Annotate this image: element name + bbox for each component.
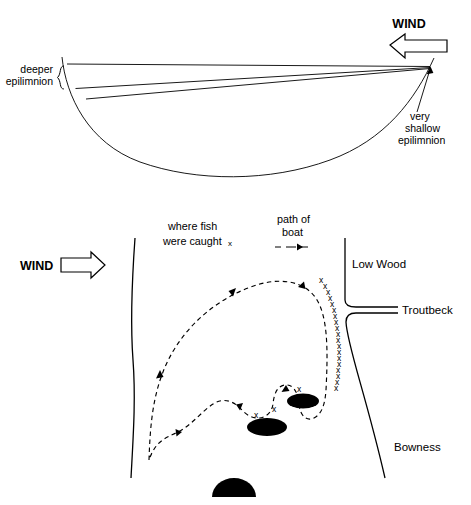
fish-legend-symbol: x bbox=[228, 239, 232, 248]
wind-arrow-left-icon bbox=[390, 34, 447, 58]
shoreline-troutbeck-bowness bbox=[346, 313, 398, 478]
very-shallow-epilimnion-leader bbox=[417, 67, 433, 113]
deeper-epilimnion-brace bbox=[58, 66, 64, 89]
island-right bbox=[287, 394, 319, 409]
fish-mark: x bbox=[297, 384, 302, 394]
wind-label-top: WIND bbox=[392, 17, 425, 31]
boat-path bbox=[149, 281, 327, 460]
very-shallow-line2: shallow bbox=[405, 122, 440, 134]
place-label-bowness: Bowness bbox=[394, 441, 441, 453]
fish-legend-line2: were caught bbox=[162, 235, 222, 247]
water-surface-line bbox=[67, 64, 430, 67]
boat-legend-symbol-icon bbox=[275, 244, 308, 251]
boat-path-arrowhead-icon bbox=[229, 288, 237, 297]
wind-arrow-top: WIND bbox=[390, 17, 447, 58]
boat-path-arrowhead-icon bbox=[156, 370, 164, 379]
boat-legend-line2: boat bbox=[282, 226, 303, 238]
wind-label-bottom: WIND bbox=[20, 259, 53, 273]
boat-legend-line1: path of bbox=[277, 213, 311, 225]
very-shallow-line3: epilimnion bbox=[398, 134, 445, 146]
wind-arrow-right-icon bbox=[61, 252, 105, 278]
fish-mark: x bbox=[254, 410, 259, 420]
wind-arrow-bottom: WIND bbox=[20, 252, 105, 278]
lake-map-panel: WIND where fish were caught x path of bo… bbox=[20, 213, 453, 497]
fish-legend: where fish were caught x bbox=[162, 220, 232, 248]
lower-thermocline-line bbox=[86, 69, 430, 100]
place-label-low-wood: Low Wood bbox=[352, 258, 406, 270]
island-bottom bbox=[212, 478, 256, 497]
shoreline-low-wood bbox=[345, 238, 398, 307]
deeper-epilimnion-line2: epilimnion bbox=[6, 75, 53, 87]
deeper-epilimnion-line1: deeper bbox=[20, 63, 53, 75]
very-shallow-epilimnion-label: very shallow epilimnion bbox=[398, 110, 445, 146]
cross-section-panel: WIND deeper epilimnion very shallow epil… bbox=[6, 17, 447, 177]
very-shallow-line1: very bbox=[410, 110, 431, 122]
lake-basin-curve bbox=[62, 57, 434, 177]
leader-line bbox=[417, 71, 430, 112]
fish-legend-line1: where fish bbox=[167, 220, 217, 232]
boat-path-line bbox=[149, 281, 327, 460]
place-label-troutbeck: Troutbeck bbox=[402, 304, 453, 316]
lake-stratification-figure: WIND deeper epilimnion very shallow epil… bbox=[0, 0, 471, 505]
fish-mark: x bbox=[272, 404, 277, 414]
deeper-epilimnion-label: deeper epilimnion bbox=[6, 63, 54, 87]
boat-legend: path of boat bbox=[275, 213, 311, 251]
shoreline-west bbox=[131, 238, 135, 478]
island-left bbox=[247, 418, 287, 436]
upper-thermocline-line bbox=[76, 68, 431, 89]
